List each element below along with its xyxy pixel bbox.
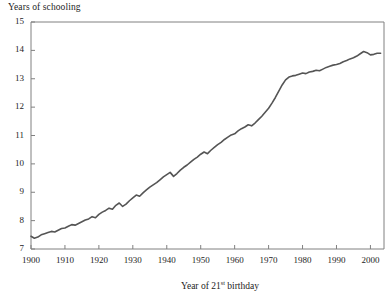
- y-tick-label: 15: [6, 16, 24, 26]
- x-tick-label: 1900: [14, 255, 48, 265]
- data-line-years-of-schooling: [31, 52, 381, 239]
- y-tick-label: 7: [6, 243, 24, 253]
- y-tick-label: 9: [6, 186, 24, 196]
- x-tick-label: 1940: [150, 255, 184, 265]
- y-tick-label: 8: [6, 215, 24, 225]
- y-tick-label: 10: [6, 158, 24, 168]
- x-tick-label: 1970: [252, 255, 286, 265]
- y-tick-label: 11: [6, 130, 24, 140]
- x-tick-label: 1920: [82, 255, 116, 265]
- x-tick-label: 1990: [319, 255, 353, 265]
- x-tick-label: 1980: [286, 255, 320, 265]
- x-tick-label: 2000: [353, 255, 387, 265]
- chart-figure: Years of schooling Year of 21st birthday…: [0, 0, 388, 299]
- x-tick-label: 1930: [116, 255, 150, 265]
- y-tick-label: 13: [6, 73, 24, 83]
- x-tick-label: 1950: [184, 255, 218, 265]
- x-tick-label: 1960: [218, 255, 252, 265]
- x-tick-label: 1910: [48, 255, 82, 265]
- y-tick-label: 14: [6, 44, 24, 54]
- y-tick-label: 12: [6, 101, 24, 111]
